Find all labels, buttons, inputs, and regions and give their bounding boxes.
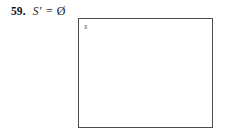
set-expression: S′ = Ø (33, 5, 66, 18)
equals-symbol: = (46, 6, 53, 18)
prime-symbol: ′ (39, 6, 42, 18)
exercise-number: 59. (11, 6, 26, 18)
venn-diagram-interior (79, 19, 212, 127)
venn-diagram-frame: S (78, 18, 213, 128)
set-symbol: S (33, 6, 39, 18)
empty-set-symbol: Ø (57, 5, 66, 17)
exercise-answer-line: 59. S′ = Ø (11, 5, 66, 18)
page-canvas: 59. S′ = Ø S (0, 0, 226, 140)
